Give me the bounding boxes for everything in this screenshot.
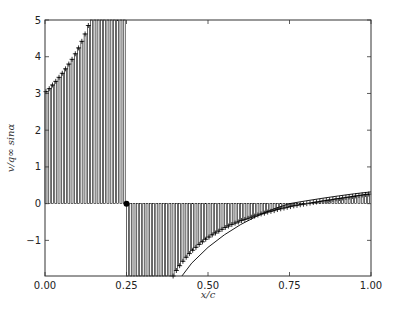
bar — [48, 89, 50, 204]
bar — [224, 204, 226, 228]
plus-marker — [190, 248, 195, 253]
plus-marker — [301, 202, 306, 207]
bar — [123, 20, 125, 204]
plus-marker — [200, 239, 205, 244]
bar — [228, 204, 230, 226]
plus-marker — [66, 62, 71, 67]
x-tick-label: 1.00 — [360, 280, 382, 291]
bar — [65, 69, 67, 204]
bar — [133, 204, 135, 276]
y-tick-label: 0 — [35, 198, 41, 209]
plus-marker — [180, 259, 185, 264]
bar — [156, 204, 158, 276]
bar — [201, 204, 203, 242]
bar — [182, 204, 184, 262]
bar — [117, 20, 119, 204]
bar — [127, 204, 129, 276]
plus-marker — [308, 201, 313, 206]
y-tick-label: 1 — [35, 161, 41, 172]
plus-marker — [79, 39, 84, 44]
bar — [84, 34, 86, 204]
bar — [211, 204, 213, 235]
bar — [218, 204, 220, 232]
plus-marker — [311, 200, 316, 205]
bar — [110, 20, 112, 204]
bar — [162, 204, 164, 276]
plus-marker — [304, 201, 309, 206]
bar — [237, 204, 239, 222]
plus-marker — [285, 205, 290, 210]
x-tick-label: 0.75 — [278, 280, 300, 291]
bar — [71, 59, 73, 203]
bar — [198, 204, 200, 245]
bar — [169, 204, 171, 276]
bar — [55, 81, 57, 203]
bar — [231, 204, 233, 225]
bar — [78, 48, 80, 204]
bar — [91, 20, 93, 204]
bar — [97, 20, 99, 204]
bar — [215, 204, 217, 233]
bar — [208, 204, 210, 237]
leading-point — [124, 201, 130, 207]
bar — [140, 204, 142, 276]
bar — [130, 204, 132, 276]
plus-marker — [294, 203, 299, 208]
plus-marker — [73, 51, 78, 56]
plus-marker — [86, 23, 91, 28]
y-tick-label: 3 — [35, 88, 41, 99]
plus-marker — [317, 199, 322, 204]
plus-marker — [177, 263, 182, 268]
bar — [113, 20, 115, 204]
bar — [81, 41, 83, 203]
plus-marker — [350, 194, 355, 199]
plus-marker — [298, 202, 303, 207]
bar — [195, 204, 197, 248]
bar — [146, 204, 148, 276]
plus-marker — [174, 268, 179, 273]
bar — [58, 77, 60, 203]
plus-marker — [53, 79, 58, 84]
plus-marker — [321, 198, 326, 203]
plus-marker — [206, 235, 211, 240]
y-tick-label: −1 — [26, 235, 41, 246]
bar — [68, 64, 70, 204]
y-axis-label: v/q∞ sinα — [5, 124, 16, 173]
bar — [120, 20, 122, 204]
bar — [136, 204, 138, 276]
plus-marker — [70, 57, 75, 62]
y-axis-ticks: −1012345 — [26, 15, 371, 246]
y-tick-label: 5 — [35, 15, 41, 26]
bar — [107, 20, 109, 204]
plus-marker — [340, 195, 345, 200]
bar — [143, 204, 145, 276]
bar — [52, 85, 54, 204]
chart: 0.000.250.500.751.00 −1012345 x/c v/q∞ s… — [0, 0, 399, 316]
x-tick-label: 0.00 — [34, 280, 56, 291]
plus-marker — [184, 255, 189, 260]
plus-marker — [330, 197, 335, 202]
bar — [172, 204, 174, 276]
bar — [175, 204, 177, 271]
plus-marker — [288, 204, 293, 209]
bar — [74, 54, 76, 204]
bar — [185, 204, 187, 258]
x-axis-label: x/c — [201, 289, 216, 300]
bar — [188, 204, 190, 254]
bar — [179, 204, 181, 266]
plus-marker — [347, 195, 352, 200]
bar — [94, 20, 96, 204]
plus-marker — [187, 251, 192, 256]
plus-marker — [83, 31, 88, 36]
x-tick-label: 0.25 — [115, 280, 137, 291]
plus-marker — [197, 242, 202, 247]
plus-marker — [314, 199, 319, 204]
plus-marker — [327, 197, 332, 202]
plus-marker — [291, 203, 296, 208]
plus-marker — [63, 66, 68, 71]
plus-marker — [193, 245, 198, 250]
plus-marker — [47, 86, 52, 91]
bar — [192, 204, 194, 251]
plus-marker — [50, 83, 55, 88]
bar — [153, 204, 155, 276]
